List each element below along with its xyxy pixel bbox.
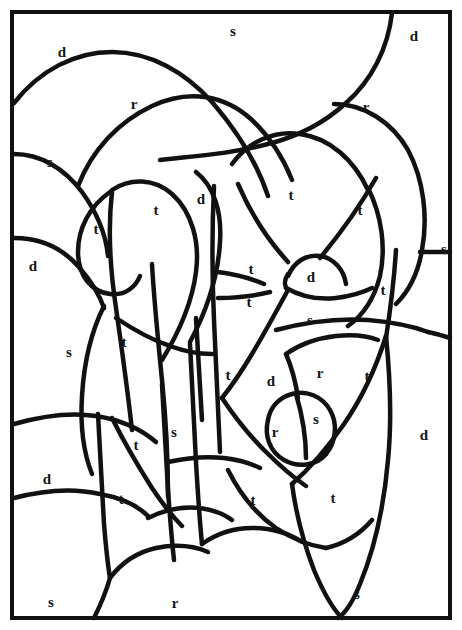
region-letter-d: d <box>43 471 52 487</box>
region-letter-d: d <box>267 373 276 389</box>
puzzle-drawing: dsdrrsdttttsdtdttststdrtsrdstdtttsrs <box>0 0 462 630</box>
region-letter-s: s <box>441 241 447 257</box>
region-letter-t: t <box>365 368 370 384</box>
region-letter-s: s <box>230 23 236 39</box>
region-letter-d: d <box>197 191 206 207</box>
region-letter-r: r <box>363 99 370 115</box>
region-letter-t: t <box>154 202 159 218</box>
region-letter-t: t <box>289 187 294 203</box>
region-letter-d: d <box>58 44 67 60</box>
region-letter-t: t <box>119 491 124 507</box>
region-letter-t: t <box>251 492 256 508</box>
region-letter-s: s <box>313 411 319 427</box>
region-letter-d: d <box>29 258 38 274</box>
region-letter-t: t <box>94 221 99 237</box>
region-letter-t: t <box>331 490 336 506</box>
region-letter-d: d <box>420 427 429 443</box>
region-letter-t: t <box>247 294 252 310</box>
region-letter-d: d <box>410 28 419 44</box>
region-letter-t: t <box>358 202 363 218</box>
region-letter-s: s <box>171 424 177 440</box>
region-letter-s: s <box>354 586 360 602</box>
region-letter-r: r <box>131 96 138 112</box>
region-letter-d: d <box>307 269 316 285</box>
region-letter-t: t <box>122 334 127 350</box>
region-letter-t: t <box>249 261 254 277</box>
region-letter-s: s <box>48 594 54 610</box>
region-letter-s: s <box>47 154 53 170</box>
region-letter-t: t <box>226 367 231 383</box>
region-letter-t: t <box>381 282 386 298</box>
puzzle-canvas: dsdrrsdttttsdtdttststdrtsrdstdtttsrs <box>0 0 462 630</box>
region-letter-s: s <box>307 312 313 328</box>
region-letter-r: r <box>172 595 179 611</box>
region-letter-r: r <box>272 424 279 440</box>
region-letter-s: s <box>66 344 72 360</box>
region-letter-t: t <box>134 437 139 453</box>
region-letter-r: r <box>317 365 324 381</box>
